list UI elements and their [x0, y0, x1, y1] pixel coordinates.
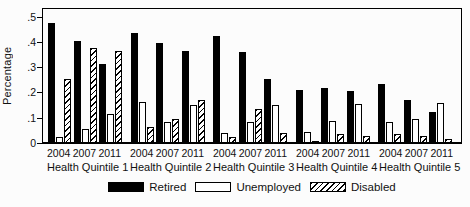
legend-label: Unemployed [236, 181, 301, 193]
quintile-group [48, 9, 122, 142]
bar-disabled [198, 100, 205, 142]
year-label-row: 200420072011 [296, 147, 370, 159]
year-label: 2004 [47, 147, 70, 159]
quintile-label: Health Quintile 2 [130, 161, 204, 173]
year-bar-group [347, 91, 370, 142]
bar-disabled [255, 109, 262, 142]
x-label-column: 200420072011Health Quintile 2 [130, 147, 204, 173]
year-label-row: 200420072011 [130, 147, 204, 159]
bar-retired [404, 100, 411, 142]
bar-unemployed [190, 105, 197, 142]
year-label-row: 200420072011 [47, 147, 121, 159]
bar-unemployed [221, 133, 228, 142]
legend-label: Disabled [351, 181, 396, 193]
bar-retired [182, 51, 189, 142]
year-bar-group [239, 52, 262, 142]
bar-unemployed [412, 119, 419, 142]
y-tick-label: .4 [14, 36, 36, 48]
year-label: 2011 [181, 147, 204, 159]
quintile-label: Health Quintile 4 [296, 161, 370, 173]
y-axis-title: Percentage [0, 8, 14, 144]
y-tick-label: .2 [14, 86, 36, 98]
bar-retired [48, 23, 55, 142]
year-bar-group [156, 43, 179, 142]
year-bar-group [48, 23, 71, 142]
year-bar-group [378, 84, 401, 142]
bar-retired [347, 91, 354, 142]
bar-retired [213, 36, 220, 142]
bar-unemployed [82, 129, 89, 142]
year-label: 2011 [430, 147, 453, 159]
y-tick-label: 0 [14, 137, 36, 149]
bar-disabled [64, 79, 71, 142]
bar-disabled [445, 139, 452, 142]
legend: RetiredUnemployedDisabled [42, 181, 462, 193]
x-label-column: 200420072011Health Quintile 4 [296, 147, 370, 173]
legend-label: Retired [149, 181, 186, 193]
bar-retired [296, 90, 303, 142]
year-bar-group [404, 100, 427, 142]
year-label: 2007 [73, 147, 96, 159]
year-bar-group [296, 90, 319, 142]
bar-unemployed [164, 122, 171, 142]
x-label-column: 200420072011Health Quintile 5 [379, 147, 453, 173]
year-label: 2007 [156, 147, 179, 159]
y-tick-label: .1 [14, 112, 36, 124]
year-label: 2007 [239, 147, 262, 159]
year-label: 2004 [130, 147, 153, 159]
bar-retired [429, 112, 436, 142]
bar-retired [74, 41, 81, 142]
bar-unemployed [386, 122, 393, 142]
bar-disabled [394, 134, 401, 142]
year-label: 2004 [379, 147, 402, 159]
bar-disabled [420, 136, 427, 142]
year-bar-group [99, 51, 122, 142]
quintile-group [213, 9, 287, 142]
quintile-label: Health Quintile 3 [213, 161, 287, 173]
legend-item-retired: Retired [108, 181, 186, 193]
year-label: 2004 [213, 147, 236, 159]
bar-unemployed [272, 105, 279, 142]
bar-unemployed [329, 121, 336, 142]
legend-item-unemployed: Unemployed [195, 181, 301, 193]
year-bar-group [74, 41, 97, 142]
year-label: 2011 [264, 147, 287, 159]
quintile-group [296, 9, 370, 142]
year-label: 2007 [405, 147, 428, 159]
y-axis-tick-labels: .5.4.3.2.10 [14, 8, 36, 144]
year-label-row: 200420072011 [379, 147, 453, 159]
plot-area [42, 8, 462, 144]
bar-disabled [337, 134, 344, 142]
bar-retired [264, 79, 271, 142]
year-label: 2011 [347, 147, 370, 159]
bar-retired [378, 84, 385, 142]
quintile-group [131, 9, 205, 142]
year-label: 2007 [322, 147, 345, 159]
bar-disabled [115, 51, 122, 142]
x-label-column: 200420072011Health Quintile 3 [213, 147, 287, 173]
bar-disabled [90, 48, 97, 142]
bar-disabled [280, 133, 287, 142]
year-label: 2004 [296, 147, 319, 159]
year-label-row: 200420072011 [213, 147, 287, 159]
y-tick-label: .3 [14, 61, 36, 73]
quintile-label: Health Quintile 1 [47, 161, 121, 173]
year-bar-group [321, 88, 344, 142]
legend-swatch-disabled [310, 182, 346, 192]
legend-swatch-unemployed [195, 182, 231, 192]
bar-disabled [172, 119, 179, 142]
bar-retired [99, 64, 106, 142]
year-label: 2011 [98, 147, 121, 159]
bar-retired [321, 88, 328, 142]
bar-disabled [147, 127, 154, 142]
x-axis-labels: 200420072011Health Quintile 120042007201… [42, 147, 462, 173]
bar-unemployed [56, 137, 63, 142]
bar-disabled [229, 137, 236, 142]
quintile-label: Health Quintile 5 [379, 161, 453, 173]
legend-swatch-retired [108, 182, 144, 192]
bar-chart-figure: Percentage .5.4.3.2.10 200420072011Healt… [0, 0, 470, 207]
year-bar-group [131, 33, 154, 142]
legend-item-disabled: Disabled [310, 181, 396, 193]
bar-disabled [363, 136, 370, 142]
bar-retired [239, 52, 246, 142]
